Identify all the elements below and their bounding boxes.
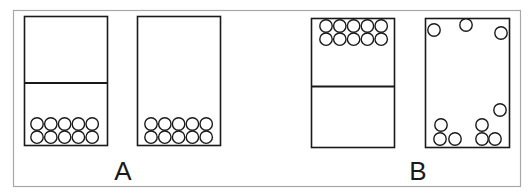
particle (435, 119, 447, 131)
particle (375, 20, 387, 32)
outer-frame (14, 11, 521, 187)
panel-b-label: B (409, 156, 426, 186)
particle (159, 131, 171, 143)
particle (159, 118, 171, 130)
particle (186, 131, 198, 143)
diagram-canvas: A B (0, 0, 530, 194)
particle (361, 20, 373, 32)
particle (375, 33, 387, 45)
particle (334, 20, 346, 32)
particle (347, 20, 359, 32)
particle (172, 118, 184, 130)
particle (45, 118, 57, 130)
panel-a-left-particles (31, 118, 99, 144)
panel-a-right-particles (145, 118, 213, 144)
particle (186, 118, 198, 130)
particle (86, 131, 98, 143)
particle (460, 19, 472, 31)
particle (495, 27, 507, 39)
particle (72, 131, 84, 143)
particle (145, 131, 157, 143)
particle (476, 119, 488, 131)
particle (200, 131, 212, 143)
particle (334, 33, 346, 45)
panel-a: A (25, 17, 221, 187)
particle (31, 131, 43, 143)
particle (172, 131, 184, 143)
particle (434, 133, 446, 145)
particle (320, 20, 332, 32)
particle (45, 131, 57, 143)
particle (489, 133, 501, 145)
particle (58, 118, 70, 130)
particle (58, 131, 70, 143)
panel-a-label: A (114, 156, 132, 186)
particle (428, 24, 440, 36)
particle (347, 33, 359, 45)
panel-b: B (312, 19, 510, 187)
particle (494, 104, 506, 116)
particle (449, 133, 461, 145)
particle (31, 118, 43, 130)
particle (86, 118, 98, 130)
particle (476, 133, 488, 145)
panel-b-left-particles (320, 20, 388, 46)
particle (200, 118, 212, 130)
particle (145, 118, 157, 130)
particle (320, 33, 332, 45)
particle (72, 118, 84, 130)
panel-b-right-particles (428, 19, 507, 145)
particle (361, 33, 373, 45)
